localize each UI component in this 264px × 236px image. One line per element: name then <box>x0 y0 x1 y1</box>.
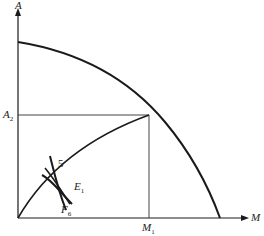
f6-label-main: F <box>61 203 68 215</box>
e1-label-sub: 1 <box>81 187 85 195</box>
e1-label: E1 <box>74 181 84 195</box>
outer-frontier-curve <box>18 42 220 218</box>
x-axis-label: M <box>251 212 260 223</box>
a2-label: A2 <box>3 109 13 123</box>
point-5-label: 5 <box>58 158 64 169</box>
inner-expansion-curve <box>18 115 149 218</box>
a2-label-sub: 2 <box>10 115 14 123</box>
y-axis-label: A <box>15 0 22 11</box>
m1-label-sub: 1 <box>151 228 155 236</box>
m1-label-main: M <box>142 221 151 233</box>
e1-label-main: E <box>74 180 81 192</box>
f6-label: F6 <box>61 204 71 218</box>
diagram-canvas <box>0 0 264 236</box>
m1-label: M1 <box>142 222 155 236</box>
tangent-curve-a <box>45 168 70 204</box>
x-axis-arrow-icon <box>241 215 249 221</box>
f6-label-sub: 6 <box>68 210 72 218</box>
a2-label-main: A <box>3 108 10 120</box>
